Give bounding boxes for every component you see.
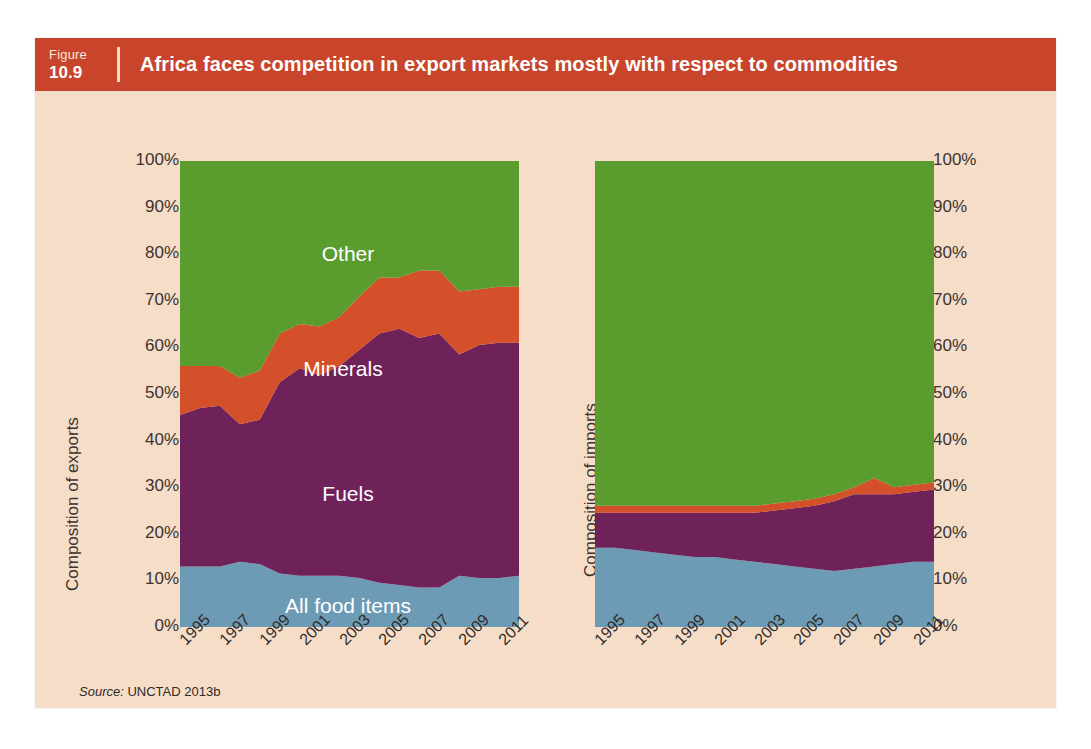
y-tick-left-100: 100% [117, 150, 179, 170]
source-note: Source: UNCTAD 2013b [79, 684, 220, 699]
series-label-other: Other [322, 242, 375, 265]
y-tick-right-30: 30% [933, 476, 995, 496]
figure-body: Composition of exports Composition of im… [35, 91, 1056, 708]
y-tick-left-90: 90% [117, 197, 179, 217]
series-label-fuels: Fuels [322, 482, 373, 505]
y-tick-right-80: 80% [933, 243, 995, 263]
y-tick-right-20: 20% [933, 523, 995, 543]
y-tick-right-100: 100% [933, 150, 995, 170]
figure-label: Figure [49, 48, 87, 62]
source-label: Source: [79, 684, 124, 699]
y-tick-left-80: 80% [117, 243, 179, 263]
y-tick-right-70: 70% [933, 290, 995, 310]
series-label-food: All food items [285, 594, 411, 617]
y-tick-right-10: 10% [933, 569, 995, 589]
figure-number-block: Figure 10.9 [35, 38, 117, 91]
imports-x-axis: 199519971999200120032005200720092011 [595, 636, 934, 696]
y-tick-left-30: 30% [117, 476, 179, 496]
source-text: UNCTAD 2013b [127, 684, 220, 699]
area-band-other [595, 161, 934, 506]
y-tick-left-0: 0% [117, 616, 179, 636]
figure-header: Figure 10.9 Africa faces competition in … [35, 38, 1056, 91]
figure-number: 10.9 [49, 63, 82, 82]
exports-x-axis: 199519971999200120032005200720092011 [180, 636, 519, 696]
y-tick-right-90: 90% [933, 197, 995, 217]
y-tick-left-50: 50% [117, 383, 179, 403]
y-tick-left-40: 40% [117, 430, 179, 450]
y-tick-left-20: 20% [117, 523, 179, 543]
figure-title: Africa faces competition in export marke… [120, 38, 1056, 91]
y-tick-left-70: 70% [117, 290, 179, 310]
series-label-minerals: Minerals [303, 357, 382, 380]
y-tick-right-40: 40% [933, 430, 995, 450]
exports-axis-title: Composition of exports [63, 417, 83, 591]
figure-container: Figure 10.9 Africa faces competition in … [35, 38, 1056, 708]
y-tick-left-60: 60% [117, 336, 179, 356]
y-tick-right-50: 50% [933, 383, 995, 403]
y-tick-right-60: 60% [933, 336, 995, 356]
exports-area-chart: OtherMineralsFuelsAll food items [180, 161, 519, 627]
imports-area-chart [595, 161, 934, 627]
y-tick-left-10: 10% [117, 569, 179, 589]
